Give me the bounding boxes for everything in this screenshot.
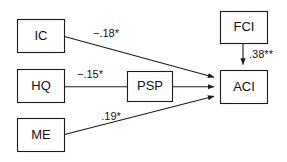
node-psp[interactable]: PSP [128, 72, 173, 102]
edge-label-hq-aci: −.15* [77, 68, 104, 80]
node-fci[interactable]: FCI [221, 12, 268, 44]
node-label-ic: IC [35, 28, 48, 43]
path-diagram-canvas: −.18* −.15* .19* .38** IC HQ [0, 0, 287, 162]
edge-label-me-aci: .19* [101, 110, 121, 122]
node-label-me: ME [31, 127, 51, 142]
node-aci[interactable]: ACI [221, 71, 268, 104]
node-label-fci: FCI [234, 19, 255, 34]
node-me[interactable]: ME [18, 119, 65, 152]
edge-label-fci-aci: .38** [249, 48, 274, 60]
path-diagram: −.18* −.15* .19* .38** IC HQ [0, 0, 287, 162]
node-label-psp: PSP [137, 78, 163, 93]
edge-fci-aci: .38** [243, 44, 274, 65]
node-label-aci: ACI [233, 79, 255, 94]
node-ic[interactable]: IC [18, 20, 65, 53]
node-hq[interactable]: HQ [18, 70, 65, 103]
node-label-hq: HQ [31, 78, 51, 93]
edge-label-ic-aci: −.18* [93, 27, 120, 39]
